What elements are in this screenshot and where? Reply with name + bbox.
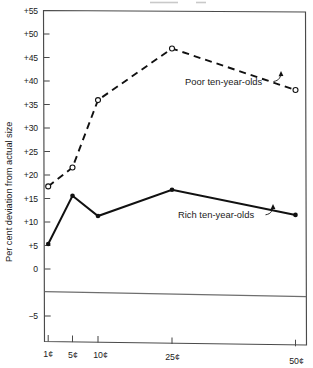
x-tick-label: 5¢: [68, 350, 78, 360]
y-tick-label: +20: [24, 170, 39, 180]
chart-canvas: +55 +50 +45 +40 +35 +30 +25 +20 +15 +10 …: [0, 0, 313, 368]
y-tick-label: +25: [24, 147, 39, 157]
y-tick-label: +35: [24, 100, 39, 110]
data-point-rich-1c: [46, 242, 51, 247]
y-tick-label: +30: [24, 123, 39, 133]
data-point-rich-50c: [293, 213, 298, 218]
data-point-poor-50c: [293, 88, 298, 93]
data-point-poor-10c: [96, 98, 101, 103]
data-point-poor-25c: [170, 46, 175, 51]
x-tick-label: 25¢: [165, 352, 180, 362]
annotation-poor-label: Poor ten-year-olds: [185, 76, 262, 87]
x-tick-label: 10¢: [93, 350, 108, 360]
data-point-poor-5c: [70, 165, 75, 170]
y-tick-label: 0: [33, 264, 38, 274]
chart-figure: +55 +50 +45 +40 +35 +30 +25 +20 +15 +10 …: [0, 0, 313, 368]
y-tick-label: +55: [24, 6, 39, 16]
y-axis-title-text: Per cent deviation from actual size: [4, 122, 14, 262]
y-tick-label: +40: [24, 76, 39, 86]
data-point-poor-1c: [46, 184, 51, 189]
x-tick-label: 50¢: [289, 356, 304, 366]
y-tick-label: +50: [24, 29, 39, 39]
x-tick-label: 1¢: [43, 349, 53, 359]
y-tick-label: +45: [24, 53, 39, 63]
y-tick-label: −5: [28, 311, 38, 321]
y-tick-label: +15: [24, 194, 39, 204]
data-point-rich-10c: [96, 214, 101, 219]
y-tick-label: +10: [24, 217, 39, 227]
data-point-rich-25c: [170, 188, 175, 193]
annotation-rich-label: Rich ten-year-olds: [178, 209, 254, 220]
y-tick-label: +5: [28, 241, 38, 251]
y-axis-title: Per cent deviation from actual size: [4, 122, 14, 262]
data-point-rich-5c: [70, 194, 75, 199]
